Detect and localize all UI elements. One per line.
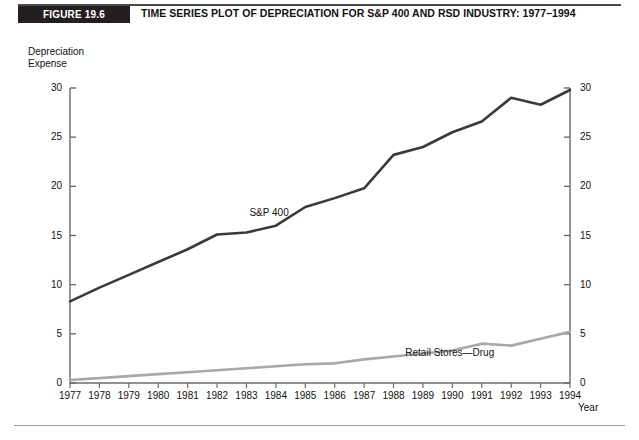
y-tick-label-left: 25 xyxy=(40,131,62,142)
x-tick-label: 1994 xyxy=(553,390,587,401)
y-tick-label-left: 15 xyxy=(40,230,62,241)
time-series-line-chart xyxy=(0,34,639,412)
y-tick-label-right: 10 xyxy=(580,279,602,290)
y-axis-title-line2: Expense xyxy=(28,58,67,69)
figure-number-badge: FIGURE 19.6 xyxy=(18,6,130,23)
series-label-sp400: S&P 400 xyxy=(249,207,288,218)
y-tick-label-right: 30 xyxy=(580,82,602,93)
y-tick-label-left: 0 xyxy=(40,377,62,388)
y-tick-label-left: 10 xyxy=(40,279,62,290)
y-tick-label-left: 30 xyxy=(40,82,62,93)
y-tick-label-left: 5 xyxy=(40,328,62,339)
chart-area: Depreciation Expense Year 051015202530 0… xyxy=(0,34,639,412)
figure-number-label: FIGURE 19.6 xyxy=(43,9,105,20)
y-axis-title-line1: Depreciation xyxy=(28,46,84,57)
series-label-retail-stores-drug: Retail Stores—Drug xyxy=(405,347,494,358)
y-tick-label-right: 15 xyxy=(580,230,602,241)
figure-title: TIME SERIES PLOT OF DEPRECIATION FOR S&P… xyxy=(141,7,576,19)
chart-tick-marks xyxy=(70,88,570,388)
series-line-1 xyxy=(70,332,570,380)
y-tick-label-right: 20 xyxy=(580,180,602,191)
y-tick-label-right: 25 xyxy=(580,131,602,142)
series-line-0 xyxy=(70,90,570,301)
chart-axes xyxy=(70,88,570,383)
y-tick-label-left: 20 xyxy=(40,180,62,191)
y-axis-title: Depreciation Expense xyxy=(28,46,84,69)
footer-rule xyxy=(14,425,625,426)
y-tick-label-right: 5 xyxy=(580,328,602,339)
y-tick-label-right: 0 xyxy=(580,377,602,388)
chart-series-lines xyxy=(70,90,570,380)
figure-header: FIGURE 19.6 TIME SERIES PLOT OF DEPRECIA… xyxy=(0,0,639,34)
x-axis-title: Year xyxy=(578,402,598,414)
